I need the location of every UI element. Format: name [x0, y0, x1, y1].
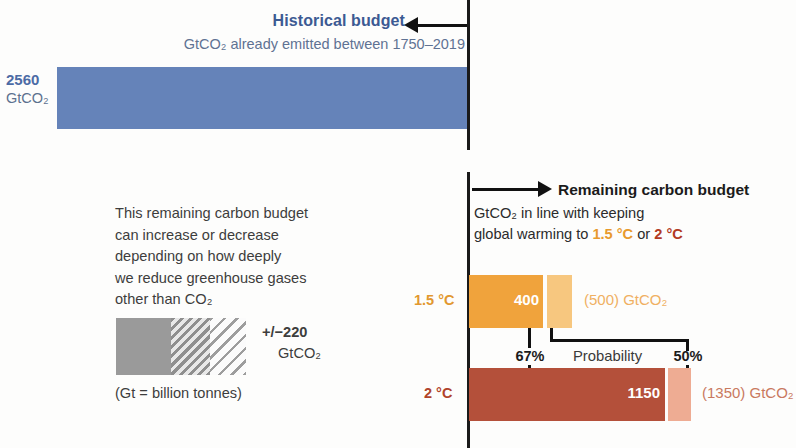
scenario-label-2c: 2 °C — [424, 385, 452, 401]
center-axis-upper — [467, 0, 470, 150]
explanation-text: This remaining carbon budget can increas… — [115, 203, 415, 311]
scenario-label-1-5c: 1.5 °C — [414, 292, 454, 308]
subtitle-conjunction: or — [633, 226, 654, 242]
arrow-left-icon — [404, 17, 418, 33]
uncertainty-gradient-swatch — [116, 318, 246, 375]
subtitle-prefix: global warming to — [474, 226, 592, 242]
carbon-budget-infographic: Historical budget GtCO₂ already emitted … — [0, 0, 796, 448]
remaining-budget-subtitle: GtCO₂ in line with keeping global warmin… — [474, 203, 683, 245]
arrow-right-icon — [538, 181, 552, 197]
bar-2c-value-50: (1350) GtCO₂ — [702, 384, 794, 401]
gigatonne-footnote: (Gt = billion tonnes) — [115, 385, 242, 401]
uncertainty-value: +/−220 — [262, 322, 372, 343]
bar-2c-50-percent — [668, 368, 691, 421]
probability-50-bracket-span — [550, 339, 689, 342]
swatch-dense-hatch-segment — [171, 318, 210, 375]
remaining-arrow-shaft — [472, 188, 540, 191]
remaining-subtitle-line-2: global warming to 1.5 °C or 2 °C — [474, 224, 683, 245]
explanation-line-4: we reduce greenhouse gases — [115, 268, 415, 290]
historical-budget-subtitle: GtCO₂ already emitted between 1750–2019 — [90, 36, 465, 52]
explanation-line-5: other than CO₂ — [115, 289, 415, 311]
historical-value-unit: GtCO₂ — [6, 89, 54, 108]
historical-budget-value: 2560 GtCO₂ — [6, 70, 54, 108]
explanation-line-2: can increase or decrease — [115, 225, 415, 247]
historical-budget-title: Historical budget — [160, 12, 405, 30]
historical-arrow-shaft — [415, 24, 467, 27]
bar-1-5c-50-percent — [547, 275, 572, 328]
probability-value-low: 50% — [658, 348, 718, 364]
remaining-subtitle-line-1: GtCO₂ in line with keeping — [474, 203, 683, 224]
bar-1-5c-value-50: (500) GtCO₂ — [584, 291, 667, 308]
temperature-20-inline: 2 °C — [654, 226, 683, 242]
probability-67-tick-upper — [528, 328, 531, 348]
temperature-15-inline: 1.5 °C — [592, 226, 633, 242]
probability-value-high: 67% — [500, 348, 560, 364]
probability-axis-label: Probability — [573, 348, 642, 364]
uncertainty-unit: GtCO₂ — [262, 343, 372, 364]
uncertainty-label: +/−220 GtCO₂ — [262, 322, 372, 364]
explanation-line-3: depending on how deeply — [115, 246, 415, 268]
remaining-budget-title: Remaining carbon budget — [558, 181, 749, 199]
bar-1-5c-value-67: 400 — [469, 291, 539, 308]
explanation-line-1: This remaining carbon budget — [115, 203, 415, 225]
swatch-solid-segment — [116, 318, 171, 375]
swatch-sparse-hatch-segment — [210, 318, 246, 375]
historical-budget-bar — [57, 67, 467, 129]
bar-2c-value-67: 1150 — [469, 384, 660, 401]
historical-value-number: 2560 — [6, 71, 39, 88]
